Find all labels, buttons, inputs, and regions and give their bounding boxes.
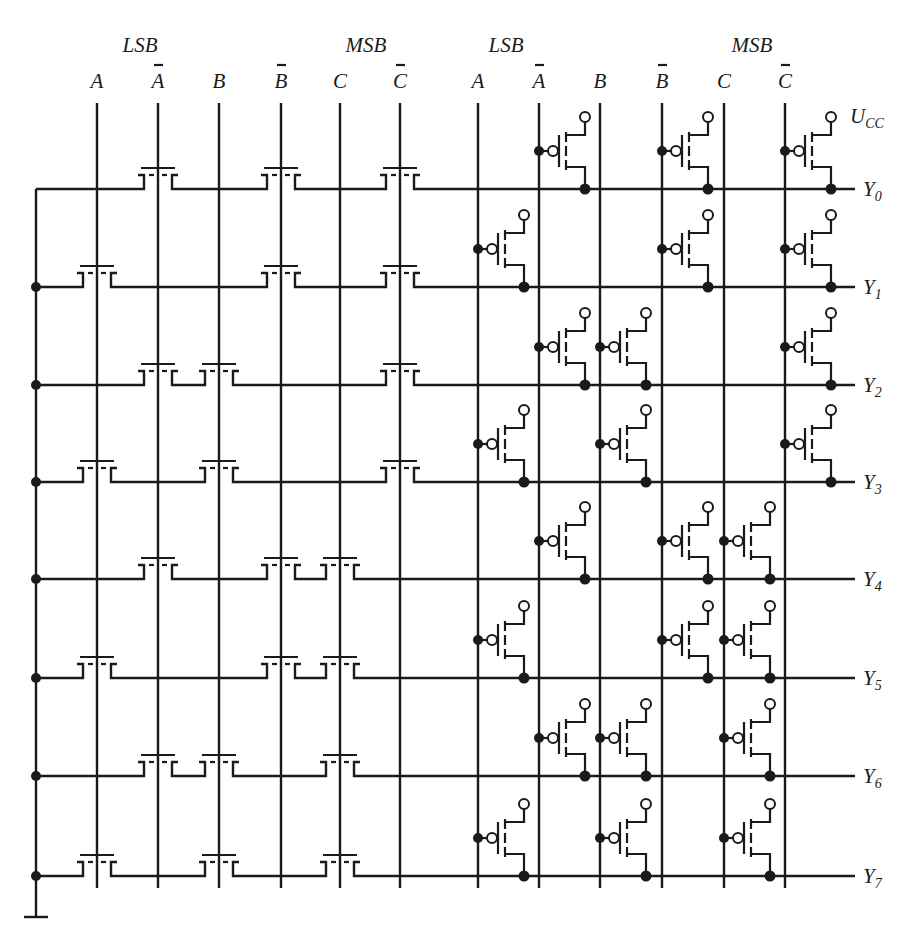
column-label-columns_left-b-bar: B [275, 69, 288, 93]
pmos-transistor-icon [780, 405, 837, 488]
supply-label-ucc: UCC [850, 104, 885, 131]
ucc-terminal-icon [765, 699, 775, 709]
pmos-transistor-icon [719, 799, 776, 882]
junction-dot [31, 771, 41, 781]
pmos-transistor-icon [780, 308, 837, 391]
junction-dot [31, 871, 41, 881]
ucc-terminal-icon [703, 210, 713, 220]
decoder-circuit-diagram: LSBMSBLSBMSBAABBCCAABBCC Y0Y1Y2Y3Y4Y5Y6Y… [0, 0, 924, 946]
ucc-terminal-icon [580, 112, 590, 122]
output-label-y6: Y6 [863, 764, 882, 791]
ucc-terminal-icon [580, 502, 590, 512]
ucc-terminal-icon [703, 601, 713, 611]
pmos-transistor-icon [780, 112, 837, 195]
junction-dot [31, 673, 41, 683]
column-label-columns_right-a: A [470, 69, 485, 93]
junction-dot [31, 574, 41, 584]
output-label-y5: Y5 [863, 666, 882, 693]
ucc-terminal-icon [765, 799, 775, 809]
column-label-columns_left-b: B [213, 69, 226, 93]
column-label-columns_right-c-bar: C [778, 69, 793, 93]
ucc-terminal-icon [519, 799, 529, 809]
ucc-terminal-icon [641, 799, 651, 809]
junction-dot [31, 282, 41, 292]
pmos-transistor-icon [719, 601, 776, 684]
ucc-terminal-icon [826, 112, 836, 122]
ucc-terminal-icon [641, 699, 651, 709]
ucc-terminal-icon [580, 699, 590, 709]
pmos-transistor-icon [595, 308, 652, 391]
pmos-transistor-icon [534, 699, 591, 782]
pmos-transistor-icon [473, 601, 530, 684]
column-label-columns_right-c: C [717, 69, 732, 93]
pmos-transistor-icon [657, 502, 714, 585]
pmos-transistor-icon [473, 210, 530, 293]
ucc-terminal-icon [826, 308, 836, 318]
output-label-y2: Y2 [863, 373, 882, 400]
ucc-terminal-icon [519, 601, 529, 611]
pmos-transistor-icon [534, 112, 591, 195]
column-label-columns_right-b: B [594, 69, 607, 93]
ucc-terminal-icon [765, 601, 775, 611]
pmos-transistor-icon [595, 699, 652, 782]
column-label-columns_right-a-bar: A [531, 69, 546, 93]
column-label-columns_left-c: C [333, 69, 348, 93]
pmos-transistor-icon [534, 308, 591, 391]
group-label-lsb: LSB [121, 33, 157, 57]
pmos-transistor-icon [595, 405, 652, 488]
pmos-transistor-icon [473, 405, 530, 488]
junction-dot [31, 477, 41, 487]
group-label-lsb: LSB [487, 33, 523, 57]
output-label-y0: Y0 [863, 177, 882, 204]
pmos-transistor-icon [595, 799, 652, 882]
ucc-terminal-icon [519, 405, 529, 415]
pmos-plane [473, 112, 837, 882]
output-label-y1: Y1 [863, 275, 882, 302]
pmos-transistor-icon [719, 699, 776, 782]
pmos-transistor-icon [473, 799, 530, 882]
output-label-y4: Y4 [863, 567, 882, 594]
ucc-terminal-icon [826, 210, 836, 220]
column-label-columns_left-a: A [89, 69, 104, 93]
ucc-terminal-icon [641, 405, 651, 415]
ucc-terminal-icon [826, 405, 836, 415]
junction-dot [31, 380, 41, 390]
column-label-columns_left-c-bar: C [393, 69, 408, 93]
ucc-terminal-icon [641, 308, 651, 318]
output-labels: Y0Y1Y2Y3Y4Y5Y6Y7UCC [850, 104, 885, 891]
ucc-terminal-icon [765, 502, 775, 512]
column-labels: LSBMSBLSBMSBAABBCCAABBCC [89, 33, 793, 93]
output-label-y3: Y3 [863, 470, 882, 497]
wires [24, 103, 855, 918]
column-label-columns_right-b-bar: B [656, 69, 669, 93]
pmos-transistor-icon [534, 502, 591, 585]
pmos-transistor-icon [719, 502, 776, 585]
pmos-transistor-icon [657, 112, 714, 195]
ucc-terminal-icon [703, 502, 713, 512]
pmos-transistor-icon [657, 601, 714, 684]
ucc-terminal-icon [519, 210, 529, 220]
pmos-transistor-icon [780, 210, 837, 293]
group-label-msb: MSB [731, 33, 773, 57]
output-label-y7: Y7 [863, 864, 883, 891]
pmos-transistor-icon [657, 210, 714, 293]
column-label-columns_left-a-bar: A [150, 69, 165, 93]
ucc-terminal-icon [703, 112, 713, 122]
group-label-msb: MSB [345, 33, 387, 57]
ucc-terminal-icon [580, 308, 590, 318]
nmos-plane [31, 168, 417, 881]
